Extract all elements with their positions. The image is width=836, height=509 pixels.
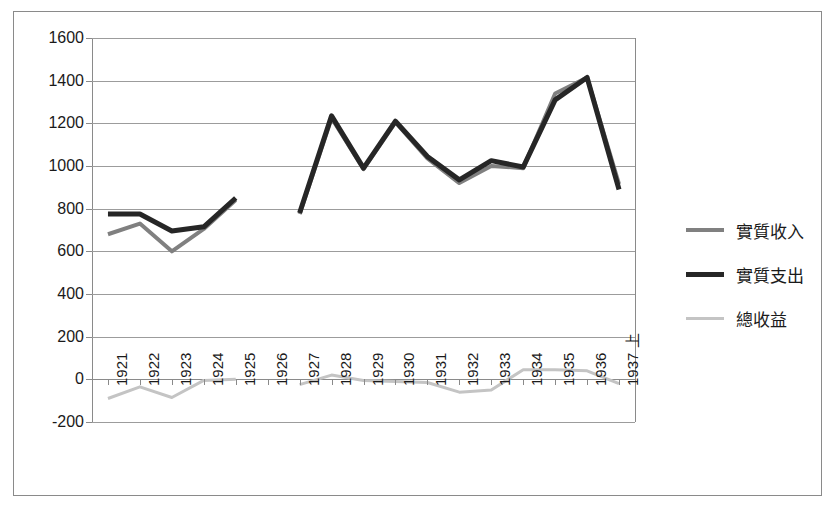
x-tick-mark-6 — [300, 379, 301, 385]
legend-label-1: 實質支出 — [736, 262, 804, 287]
x-tick-label-12: 1933 — [497, 353, 512, 386]
x-tick-mark-12 — [491, 379, 492, 385]
x-tick-label-9: 1930 — [401, 353, 416, 386]
legend-label-2: 總收益 — [736, 306, 787, 331]
x-tick-label-16: 1937 上 — [625, 334, 640, 387]
y-tick-label-200: 200 — [57, 329, 84, 345]
y-tick-label-1000: 1000 — [48, 158, 84, 174]
x-tick-label-15: 1936 — [593, 353, 608, 386]
x-tick-mark-4 — [236, 379, 237, 385]
y-tick-label-0: 0 — [75, 371, 84, 387]
x-tick-mark-14 — [555, 379, 556, 385]
x-tick-label-11: 1932 — [465, 353, 480, 386]
x-tick-mark-7 — [332, 379, 333, 385]
x-tick-mark-9 — [395, 379, 396, 385]
x-tick-mark-13 — [523, 379, 524, 385]
x-tick-label-6: 1927 — [306, 353, 321, 386]
x-tick-mark-16 — [619, 379, 620, 385]
x-tick-mark-11 — [459, 379, 460, 385]
legend-item-0[interactable]: 實質收入 — [686, 208, 816, 252]
x-tick-label-13: 1934 — [529, 353, 544, 386]
legend-item-2[interactable]: 總收益 — [686, 296, 816, 340]
legend-label-0: 實質收入 — [736, 218, 804, 243]
x-tick-mark-15 — [587, 379, 588, 385]
chart-frame: 16001400120010008006004002000-200 192119… — [13, 11, 822, 496]
x-tick-label-4: 1925 — [242, 353, 257, 386]
x-tick-label-8: 1929 — [370, 353, 385, 386]
chart-legend: 實質收入實質支出總收益 — [686, 208, 816, 340]
y-tick-label--200: -200 — [52, 414, 84, 430]
y-tick-label-400: 400 — [57, 286, 84, 302]
x-tick-mark-10 — [427, 379, 428, 385]
x-axis-labels: 1921192219231924192519261927192819291930… — [92, 12, 635, 497]
x-tick-label-7: 1928 — [338, 353, 353, 386]
x-tick-mark-3 — [204, 379, 205, 385]
x-tick-label-0: 1921 — [114, 353, 129, 386]
x-tick-label-3: 1924 — [210, 353, 225, 386]
y-tick-label-1600: 1600 — [48, 30, 84, 46]
legend-item-1[interactable]: 實質支出 — [686, 252, 816, 296]
y-tick-label-600: 600 — [57, 243, 84, 259]
x-tick-mark-1 — [140, 379, 141, 385]
y-axis-labels: 16001400120010008006004002000-200 — [14, 38, 84, 422]
x-tick-label-10: 1931 — [433, 353, 448, 386]
x-tick-mark-5 — [268, 379, 269, 385]
legend-swatch-0 — [686, 228, 724, 232]
x-tick-label-2: 1923 — [178, 353, 193, 386]
x-tick-mark-2 — [172, 379, 173, 385]
x-tick-label-14: 1935 — [561, 353, 576, 386]
y-tick-label-1400: 1400 — [48, 73, 84, 89]
y-tick-label-800: 800 — [57, 201, 84, 217]
x-tick-mark-0 — [108, 379, 109, 385]
x-tick-mark-8 — [364, 379, 365, 385]
x-tick-label-5: 1926 — [274, 353, 289, 386]
legend-swatch-2 — [686, 317, 724, 320]
y-tick-label-1200: 1200 — [48, 115, 84, 131]
legend-swatch-1 — [686, 272, 724, 277]
x-tick-label-1: 1922 — [146, 353, 161, 386]
